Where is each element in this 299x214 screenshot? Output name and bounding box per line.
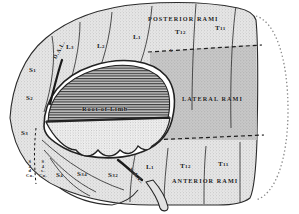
far-side-dotted-contour (256, 16, 288, 200)
figure-artwork (0, 0, 299, 214)
anatomical-figure: Posterior Rami Lateral Rami Anterior Ram… (0, 0, 299, 214)
